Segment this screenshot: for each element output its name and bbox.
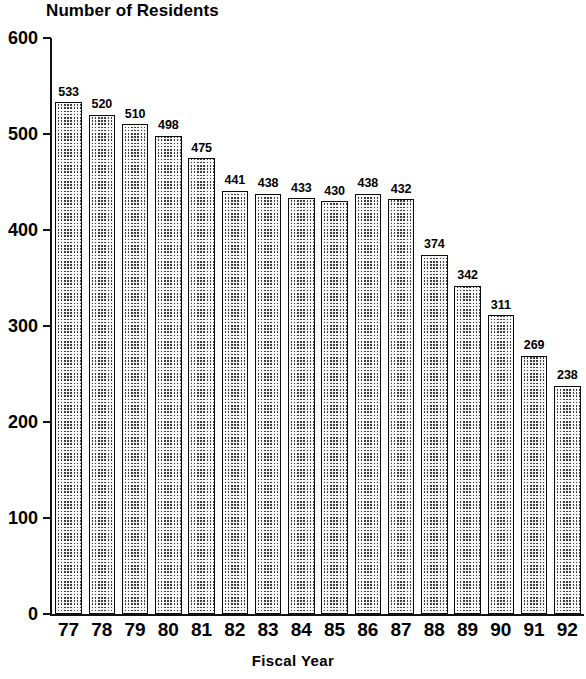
bar[interactable] (488, 315, 515, 614)
bar-value-label: 533 (58, 86, 79, 99)
bar-item[interactable]: 433 (288, 38, 315, 614)
bar-item[interactable]: 238 (554, 38, 581, 614)
x-axis-tick-label: 86 (351, 620, 384, 641)
bar-item[interactable]: 438 (255, 38, 282, 614)
bar-value-label: 430 (324, 185, 345, 198)
x-axis-tick-label: 80 (152, 620, 185, 641)
bar-item[interactable]: 533 (55, 38, 82, 614)
chart-title: Number of Residents (46, 1, 219, 21)
bar[interactable] (421, 255, 448, 614)
bar[interactable] (55, 102, 82, 614)
bar-item[interactable]: 441 (222, 38, 249, 614)
bar-item[interactable]: 498 (155, 38, 182, 614)
x-axis-tick-label: 79 (119, 620, 152, 641)
bar-item[interactable]: 510 (122, 38, 149, 614)
bar[interactable] (122, 124, 149, 614)
y-axis-tick-label: 300 (0, 317, 38, 335)
bar[interactable] (321, 201, 348, 614)
bar-value-label: 269 (524, 339, 545, 352)
bar[interactable] (188, 158, 215, 614)
bar-item[interactable]: 520 (89, 38, 116, 614)
x-axis-title: Fiscal Year (0, 652, 586, 669)
bar-item[interactable]: 430 (321, 38, 348, 614)
plot-area: 5335205104984754414384334304384323743423… (50, 38, 584, 614)
bar-value-label: 475 (191, 142, 212, 155)
bar-item[interactable]: 432 (388, 38, 415, 614)
y-axis-tick-label: 100 (0, 509, 38, 527)
bar[interactable] (222, 191, 249, 614)
bar-value-label: 498 (158, 119, 179, 132)
x-axis-labels: 77787980818283848586878889909192 (52, 620, 584, 648)
bar-chart: Number of Residents 53352051049847544143… (0, 0, 586, 679)
bar-value-label: 238 (557, 369, 578, 382)
x-axis-tick-label: 83 (252, 620, 285, 641)
bar-value-label: 438 (357, 177, 378, 190)
bar-item[interactable]: 374 (421, 38, 448, 614)
y-axis-tick-label: 600 (0, 29, 38, 47)
x-axis-tick-label: 91 (518, 620, 551, 641)
bar[interactable] (288, 198, 315, 614)
bar-item[interactable]: 269 (521, 38, 548, 614)
y-axis-tick (43, 613, 51, 615)
x-axis-tick-label: 81 (185, 620, 218, 641)
bar-item[interactable]: 475 (188, 38, 215, 614)
bar-value-label: 520 (91, 98, 112, 111)
bar-item[interactable]: 342 (454, 38, 481, 614)
bar-item[interactable]: 311 (488, 38, 515, 614)
y-axis-tick-label: 500 (0, 125, 38, 143)
x-axis-tick-label: 92 (551, 620, 584, 641)
bar-series: 5335205104984754414384334304384323743423… (52, 38, 584, 614)
x-axis-tick-label: 85 (318, 620, 351, 641)
bar-value-label: 433 (291, 182, 312, 195)
bar-item[interactable]: 438 (355, 38, 382, 614)
x-axis-tick-label: 87 (385, 620, 418, 641)
y-axis-tick (43, 37, 51, 39)
bar[interactable] (554, 386, 581, 614)
x-axis-tick-label: 77 (52, 620, 85, 641)
x-axis-tick-label: 82 (218, 620, 251, 641)
y-axis-tick-label: 400 (0, 221, 38, 239)
bar[interactable] (255, 194, 282, 614)
bar-value-label: 342 (457, 269, 478, 282)
bar[interactable] (89, 115, 116, 614)
y-axis-tick-label: 0 (0, 605, 38, 623)
bar[interactable] (388, 199, 415, 614)
bar-value-label: 510 (125, 108, 146, 121)
bar-value-label: 432 (391, 183, 412, 196)
bar[interactable] (454, 286, 481, 614)
x-axis-tick-label: 90 (484, 620, 517, 641)
bar[interactable] (355, 194, 382, 614)
bar-value-label: 438 (258, 177, 279, 190)
y-axis-tick (43, 325, 51, 327)
y-axis-tick (43, 133, 51, 135)
bar[interactable] (521, 356, 548, 614)
y-axis-tick-label: 200 (0, 413, 38, 431)
y-axis-tick (43, 517, 51, 519)
bar-value-label: 311 (491, 299, 511, 312)
x-axis-tick-label: 78 (85, 620, 118, 641)
x-axis-tick-label: 88 (418, 620, 451, 641)
y-axis-tick (43, 421, 51, 423)
bar[interactable] (155, 136, 182, 614)
bar-value-label: 441 (224, 174, 245, 187)
y-axis-tick (43, 229, 51, 231)
x-axis-tick-label: 84 (285, 620, 318, 641)
x-axis-tick-label: 89 (451, 620, 484, 641)
bar-value-label: 374 (424, 238, 445, 251)
x-axis-line (50, 614, 584, 616)
